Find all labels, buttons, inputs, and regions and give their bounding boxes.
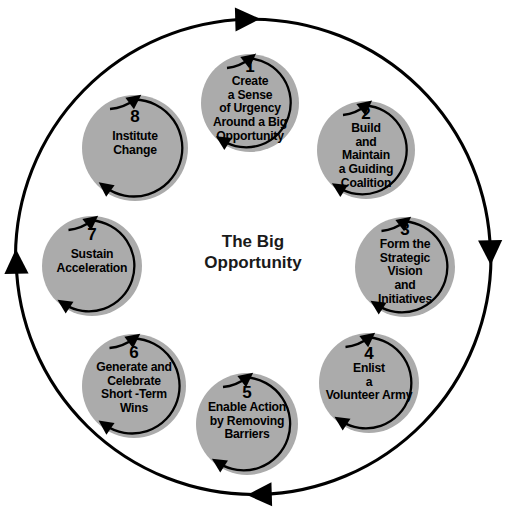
node-circle-2[interactable] <box>317 101 415 199</box>
node-circle-6[interactable] <box>82 334 186 438</box>
node-circle-3[interactable] <box>355 217 455 317</box>
node-circle-8[interactable] <box>82 95 188 201</box>
node-circle-7[interactable] <box>42 216 142 316</box>
diagram-canvas <box>0 0 506 521</box>
node-circle-4[interactable] <box>319 333 419 433</box>
node-circles-layer <box>42 54 455 475</box>
kotter-accelerators-diagram: The Big Opportunity 1 Create a Sense of … <box>0 0 506 521</box>
node-circle-5[interactable] <box>196 373 298 475</box>
node-circle-1[interactable] <box>201 54 299 152</box>
